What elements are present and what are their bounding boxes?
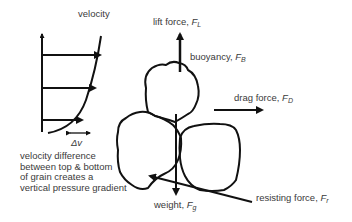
lift-force-label: lift force, FL (153, 17, 201, 28)
velocity-label: velocity (78, 9, 110, 19)
resisting-force-label: resisting force, Fr (256, 193, 329, 204)
grain-top (145, 62, 198, 122)
weight-label: weight, Fg (154, 200, 196, 211)
buoyancy-sub: B (241, 56, 246, 63)
resisting-force-text: resisting force, (256, 192, 320, 203)
drag-force-text: drag force, (234, 92, 282, 103)
velocity-difference-note: velocity difference between top & bottom… (20, 151, 127, 193)
force-diagram: velocity Δv velocity difference between … (0, 0, 352, 222)
buoyancy-text: buoyancy, (190, 51, 235, 62)
drag-force-sub: D (288, 97, 293, 104)
delta-v-label: Δv (71, 138, 82, 148)
lift-force-sub: L (197, 21, 201, 28)
note-line-4: vertical pressure gradient (20, 183, 127, 194)
buoyancy-label: buoyancy, FB (190, 52, 246, 63)
note-line-3: of grain creates a (20, 172, 127, 183)
resisting-force-sub: r (326, 197, 328, 204)
velocity-profile-curve (48, 36, 101, 133)
grain-bottom-right (180, 124, 241, 191)
weight-text: weight, (154, 199, 187, 210)
weight-sub: g (193, 204, 197, 211)
note-line-1: velocity difference (20, 151, 127, 162)
lift-force-text: lift force, (153, 16, 192, 27)
drag-force-label: drag force, FD (234, 93, 293, 104)
